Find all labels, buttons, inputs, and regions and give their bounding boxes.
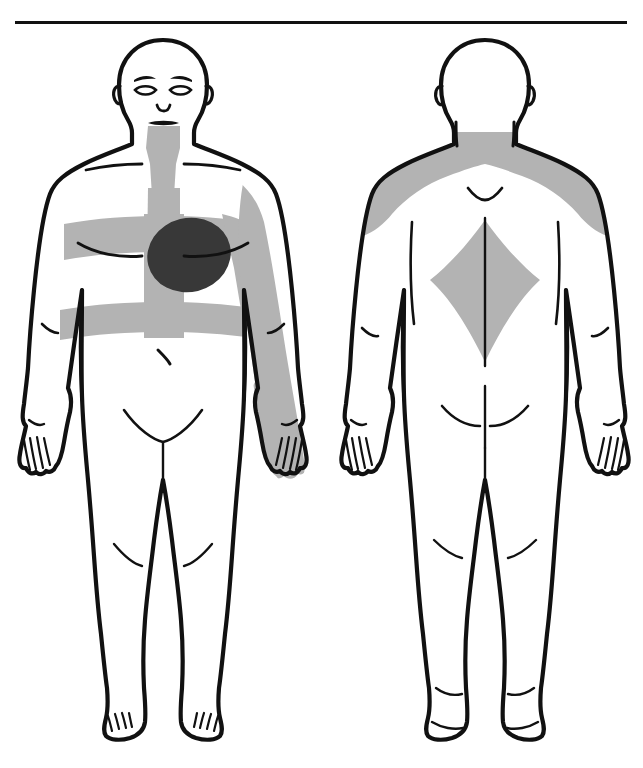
back-figure[interactable] [330, 28, 640, 748]
back-right-scapula-line [411, 222, 414, 324]
front-left-eye [170, 86, 191, 94]
front-nose [157, 105, 170, 111]
front-left-eyebrow [170, 76, 192, 82]
front-right-arm-inner-line [81, 290, 83, 400]
back-right-elbow-crease [362, 328, 378, 336]
back-right-gluteal-fold [442, 406, 480, 426]
front-right-knee-crease [114, 544, 142, 566]
front-navel [158, 350, 170, 364]
back-left-gluteal-fold [490, 406, 528, 426]
front-right-clavicle [86, 164, 142, 170]
front-left-foot-toes [194, 713, 218, 731]
back-left-hand-fingers [598, 437, 624, 470]
front-left-clavicle [184, 164, 240, 170]
front-left-arm-inner-line [244, 290, 246, 400]
back-left-arm-inner-line [566, 290, 568, 400]
back-body-svg [330, 28, 640, 748]
back-right-arm-inner-line [403, 290, 405, 400]
back-left-scapula-line [556, 222, 559, 324]
header-rule [15, 21, 627, 24]
back-nape-left-tendon [513, 122, 514, 146]
front-right-hand-fingers [24, 437, 50, 470]
back-left-elbow-crease [592, 328, 608, 336]
front-groin-lines [124, 410, 202, 442]
back-left-heel-line [507, 722, 538, 729]
back-right-ankle-line [436, 688, 462, 695]
scan-artifact-text [110, 0, 550, 8]
front-left-knee-crease [184, 544, 212, 566]
back-left-knee-crease [508, 540, 536, 558]
pain-diagram-page [0, 0, 643, 768]
front-right-eye [135, 86, 156, 94]
front-right-foot-toes [108, 713, 132, 731]
back-right-heel-line [432, 722, 463, 729]
back-right-wrist-line [351, 420, 366, 425]
back-left-wrist-line [604, 420, 619, 425]
front-body-svg [8, 28, 318, 748]
front-figure[interactable] [8, 28, 318, 748]
front-right-elbow-crease [42, 324, 58, 333]
back-left-ankle-line [508, 688, 534, 695]
back-nape-right-tendon [456, 122, 457, 146]
figures-container [0, 28, 643, 768]
back-right-knee-crease [434, 540, 462, 558]
front-right-eyebrow [134, 76, 156, 82]
front-right-wrist-line [29, 420, 44, 425]
front-mouth [148, 121, 179, 126]
back-nape-v-mark [468, 188, 502, 200]
back-right-hand-fingers [346, 437, 372, 470]
